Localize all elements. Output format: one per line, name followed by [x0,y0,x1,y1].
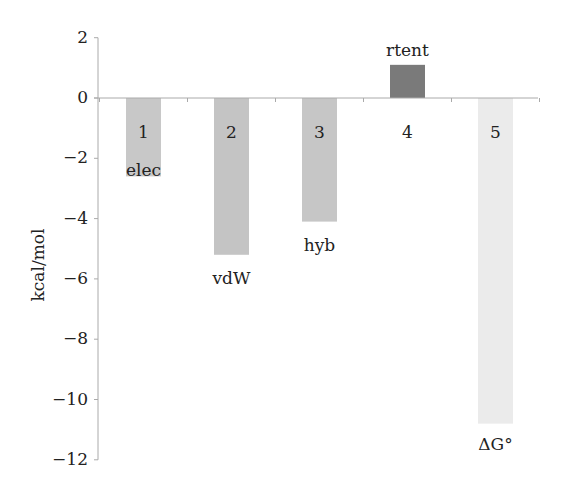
bar-chart: 20−2−4−6−8−10−121elec2vdW3hyb4rtent5ΔG°k… [0,0,563,495]
bar-label: hyb [280,235,360,255]
y-tick-label: −2 [28,147,88,167]
category-number: 5 [476,122,516,142]
bar-3 [302,98,337,222]
bar-4 [390,65,425,98]
y-tick-label: −8 [28,328,88,348]
y-axis-label: kcal/mol [28,205,48,325]
bar-label: rtent [368,40,448,60]
y-tick-label: −12 [28,449,88,469]
category-number: 3 [300,122,340,142]
category-number: 2 [212,122,252,142]
bar-label: ΔG° [456,434,536,454]
category-number: 4 [388,122,428,142]
bar-label: elec [104,160,184,180]
y-tick-label: −10 [28,389,88,409]
bar-5 [478,98,513,424]
y-tick-label: 2 [28,27,88,47]
y-tick-label: 0 [28,87,88,107]
category-number: 1 [124,122,164,142]
bar-label: vdW [192,268,272,288]
